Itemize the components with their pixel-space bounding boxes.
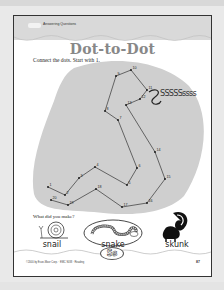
dot-label: 9 <box>118 72 120 76</box>
bottom-strip <box>0 282 224 290</box>
dot-label: 10 <box>133 66 137 70</box>
dot-label: 19 <box>70 201 74 205</box>
dot-label: 2 <box>67 191 69 195</box>
dot-label: 6 <box>139 164 141 168</box>
footer-copyright: ©2000 by Evan-Moor Corp. · EMC 9038 · Re… <box>26 261 84 264</box>
worksheet-page: Answering Questions Dot-to-Dot Connect t… <box>13 15 212 277</box>
dot-label: 18 <box>98 185 102 189</box>
dot-label: 20 <box>53 196 57 200</box>
letter-badge: Ss <box>100 247 124 260</box>
dot-label: 17 <box>124 203 128 207</box>
dot-label: 11 <box>149 86 153 90</box>
dot-label: 14 <box>157 148 161 152</box>
dot-label: 7 <box>120 116 122 120</box>
top-strip <box>0 0 224 6</box>
dot-label: 1 <box>50 183 52 187</box>
dot-label: 16 <box>149 199 153 203</box>
dot-label: 15 <box>167 175 171 179</box>
hiss-text: SSSSSssss <box>160 88 196 98</box>
page-number: 87 <box>196 260 200 264</box>
dot-label: 12 <box>142 95 146 99</box>
dot-label: 13 <box>128 101 132 105</box>
dot-label: 5 <box>129 181 131 185</box>
dot-label: 4 <box>97 163 99 167</box>
dot-label: 8 <box>107 107 109 111</box>
dot-label: 3 <box>81 174 83 178</box>
skunk-icon <box>159 211 193 243</box>
snail-icon <box>34 219 74 241</box>
